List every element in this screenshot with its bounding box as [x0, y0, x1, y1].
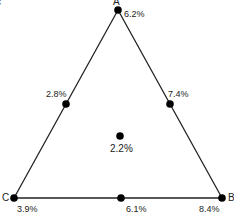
midpoint-ab-value: 7.4%	[168, 89, 189, 99]
center-dot	[116, 132, 124, 140]
vertex-c-value: 3.9%	[17, 204, 38, 214]
vertex-c-dot	[10, 194, 18, 202]
vertex-a-value: 6.2%	[124, 9, 145, 19]
vertex-b-dot	[218, 194, 226, 202]
vertex-a-dot	[114, 6, 122, 14]
vertex-b-label: B	[228, 193, 234, 203]
triangle-diagram	[0, 0, 234, 217]
vertex-c-label: C	[2, 193, 9, 203]
center-value: 2.2%	[110, 144, 133, 154]
triangle-outline	[14, 10, 222, 198]
vertex-b-value: 8.4%	[199, 204, 220, 214]
midpoint-ac-dot	[62, 100, 70, 108]
midpoint-cb-dot	[117, 194, 125, 202]
midpoint-ab-dot	[166, 100, 174, 108]
midpoint-ac-value: 2.8%	[46, 89, 67, 99]
vertex-a-label: A	[113, 0, 120, 7]
midpoint-cb-value: 6.1%	[126, 204, 147, 214]
